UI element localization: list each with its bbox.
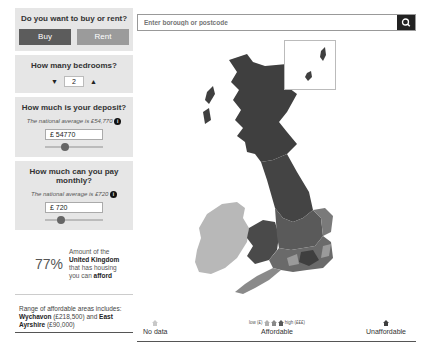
monthly-panel: How much can you pay monthly? The nation… bbox=[15, 161, 133, 230]
decrement-arrow-icon[interactable]: ▼ bbox=[51, 78, 58, 85]
house-icon bbox=[383, 320, 389, 326]
hebrides-island bbox=[205, 86, 215, 104]
bedrooms-stepper: ▼ 2 ▲ bbox=[19, 76, 129, 87]
info-icon[interactable]: i bbox=[114, 118, 121, 125]
bedrooms-title: How many bedrooms? bbox=[19, 61, 129, 70]
shetland-inset bbox=[284, 40, 336, 90]
deposit-note: The national average is £54,770 bbox=[27, 118, 113, 124]
increment-arrow-icon[interactable]: ▲ bbox=[90, 78, 97, 85]
sidebar: Do you want to buy or rent? Buy Rent How… bbox=[15, 8, 133, 333]
affordable-description: Amount of the United Kingdom that has ho… bbox=[69, 248, 119, 280]
legend-unaffordable: Unaffordable bbox=[366, 318, 406, 335]
search-input[interactable] bbox=[138, 15, 396, 30]
deposit-input[interactable]: £ 54770 bbox=[45, 129, 103, 140]
map-legend: No data low (£) high (£££) Affordable Un… bbox=[137, 318, 416, 342]
monthly-slider-thumb[interactable] bbox=[57, 216, 65, 224]
buy-rent-title: Do you want to buy or rent? bbox=[19, 14, 129, 23]
monthly-input[interactable]: £ 720 bbox=[45, 202, 103, 213]
buy-rent-panel: Do you want to buy or rent? Buy Rent bbox=[15, 8, 133, 51]
house-icon bbox=[271, 320, 277, 326]
scale-high-label: high (£££) bbox=[285, 320, 305, 325]
search-bar bbox=[137, 14, 416, 31]
search-button[interactable] bbox=[397, 15, 415, 30]
deposit-title: How much is your deposit? bbox=[19, 103, 129, 112]
affordability-stat: 77% Amount of the United Kingdom that ha… bbox=[15, 234, 133, 295]
house-icon bbox=[152, 320, 158, 326]
legend-no-data: No data bbox=[143, 318, 168, 335]
monthly-title: How much can you pay monthly? bbox=[19, 167, 129, 185]
hebrides-island bbox=[203, 108, 211, 124]
info-icon[interactable]: i bbox=[110, 191, 117, 198]
monthly-slider[interactable] bbox=[45, 216, 103, 224]
search-icon bbox=[397, 15, 415, 30]
rent-button[interactable]: Rent bbox=[77, 29, 129, 45]
affordable-range: Range of affordable areas includes: Wych… bbox=[15, 295, 133, 333]
deposit-slider[interactable] bbox=[45, 143, 103, 151]
deposit-slider-thumb[interactable] bbox=[61, 143, 69, 151]
northern-england-region bbox=[261, 154, 313, 222]
map-svg bbox=[137, 32, 416, 312]
ireland-region bbox=[195, 202, 249, 274]
scale-low-label: low (£) bbox=[249, 320, 263, 325]
monthly-note: The national average is £720 bbox=[31, 191, 108, 197]
bedrooms-panel: How many bedrooms? ▼ 2 ▲ bbox=[15, 55, 133, 93]
house-icon bbox=[278, 320, 284, 326]
uk-affordability-map[interactable] bbox=[137, 32, 416, 312]
deposit-panel: How much is your deposit? The national a… bbox=[15, 97, 133, 157]
south-west-region bbox=[235, 268, 281, 294]
bedrooms-value[interactable]: 2 bbox=[64, 76, 84, 87]
buy-button[interactable]: Buy bbox=[19, 29, 71, 45]
house-icon bbox=[264, 320, 270, 326]
legend-affordable: low (£) high (£££) Affordable bbox=[232, 318, 322, 335]
affordable-percent: 77% bbox=[19, 256, 63, 272]
